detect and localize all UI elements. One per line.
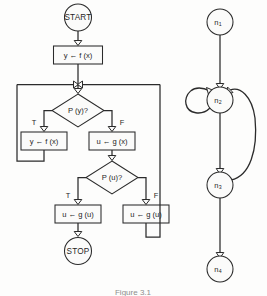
- flowchart-group: START y ← f (x) P (y)?: [17, 4, 169, 265]
- flowchart-decision2-node: P (u)?: [86, 161, 138, 194]
- stop-label: STOP: [67, 247, 90, 256]
- edge-decision2-false: [138, 178, 146, 201]
- arrowhead-process-false1: [108, 127, 116, 132]
- edge-decision1-true: [44, 111, 52, 128]
- flowgraph-node-n2: n2: [207, 87, 233, 113]
- process-false2-label: u ← g (u): [130, 210, 162, 219]
- decision2-false-label: F: [154, 191, 159, 200]
- flowchart-process-false1-node: u ← g (x): [89, 132, 135, 150]
- decision1-false-label: F: [120, 118, 125, 127]
- arrowhead-process-false2: [142, 200, 150, 205]
- figure-caption: Figure 3.1: [115, 288, 152, 296]
- flowgraph-group: n1 n2 n3 n4: [186, 9, 256, 282]
- figure-diagram: START y ← f (x) P (y)?: [0, 0, 267, 296]
- flowgraph-node-n3: n3: [207, 172, 233, 198]
- process-false1-label: u ← g (x): [96, 137, 128, 146]
- arrowhead-process-true2: [74, 200, 82, 205]
- edge-decision2-true: [78, 178, 86, 201]
- flowchart-decision1-node: P (y)?: [52, 94, 104, 127]
- arrowhead-decision1: [74, 89, 82, 94]
- flowgraph-node-n4: n4: [207, 256, 233, 282]
- flowchart-process-false2-node: u ← g (u): [123, 205, 169, 223]
- flowchart-process1-node: y ← f (x): [54, 46, 103, 64]
- decision2-label: P (u)?: [102, 173, 123, 182]
- arrowhead-stop: [74, 232, 82, 237]
- flowchart-start-node: START: [64, 4, 91, 31]
- edge-n3-to-n2-back: [230, 89, 256, 180]
- decision2-true-label: T: [66, 191, 71, 200]
- edge-n2-self-loop: [186, 88, 210, 113]
- flowchart-stop-node: STOP: [65, 238, 92, 265]
- process-true2-label: u ← g (u): [62, 210, 94, 219]
- process-true1-label: y ← f (x): [30, 137, 59, 146]
- flowchart-process-true2-node: u ← g (u): [55, 205, 101, 223]
- figure-container: START y ← f (x) P (y)?: [0, 0, 267, 296]
- arrowhead-process-true1: [40, 127, 48, 132]
- arrowhead-process1: [74, 41, 82, 46]
- flowgraph-node-n1: n1: [207, 9, 233, 35]
- edge-decision1-false: [104, 111, 112, 128]
- process1-label: y ← f (x): [64, 51, 93, 60]
- flowchart-process-true1-node: y ← f (x): [21, 132, 67, 150]
- decision1-label: P (y)?: [68, 106, 88, 115]
- decision1-true-label: T: [32, 118, 37, 127]
- arrowhead-decision2: [108, 156, 116, 161]
- start-label: START: [64, 13, 91, 22]
